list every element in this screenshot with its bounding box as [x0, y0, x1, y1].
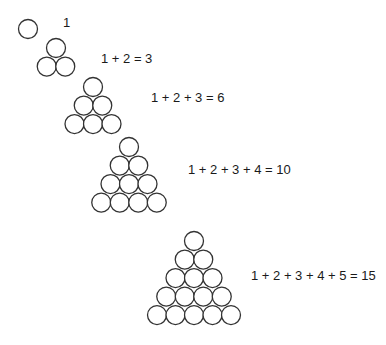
circle-triangle-1 [19, 20, 38, 39]
circle-icon [194, 287, 213, 306]
circle-icon [166, 269, 185, 288]
circle-icon [47, 39, 66, 58]
circle-icon [203, 306, 222, 325]
circle-icon [110, 193, 129, 212]
circle-triangle-2 [37, 39, 75, 77]
circle-icon [157, 287, 176, 306]
circle-icon [19, 20, 38, 39]
circle-icon [148, 306, 167, 325]
circle-triangle-5 [148, 232, 241, 325]
circle-icon [185, 306, 204, 325]
circle-icon [185, 269, 204, 288]
circle-icon [194, 250, 213, 269]
circle-icon [166, 306, 185, 325]
circle-icon [92, 193, 111, 212]
circle-icon [84, 115, 103, 134]
label-row-3: 1 + 2 + 3 = 6 [151, 90, 224, 105]
circle-icon [101, 175, 120, 194]
circle-icon [138, 175, 157, 194]
label-row-2: 1 + 2 = 3 [101, 51, 152, 66]
circle-icon [65, 115, 84, 134]
circle-icon [93, 96, 112, 115]
circle-icon [175, 250, 194, 269]
circle-icon [185, 232, 204, 251]
circle-icon [37, 57, 56, 76]
circle-icon [84, 78, 103, 97]
circle-icon [120, 175, 139, 194]
circle-icon [120, 138, 139, 157]
label-row-1: 1 [63, 15, 70, 30]
label-row-5: 1 + 2 + 3 + 4 + 5 = 15 [251, 268, 376, 283]
circle-icon [102, 115, 121, 134]
circle-icon [222, 306, 241, 325]
circle-icon [110, 156, 129, 175]
circle-icon [129, 193, 148, 212]
circle-icon [147, 193, 166, 212]
label-row-4: 1 + 2 + 3 + 4 = 10 [188, 162, 291, 177]
circle-icon [74, 96, 93, 115]
circle-triangle-3 [65, 78, 121, 134]
circle-triangle-4 [92, 138, 167, 213]
circle-icon [212, 287, 231, 306]
circle-icon [203, 269, 222, 288]
circle-icon [56, 57, 75, 76]
circle-icon [129, 156, 148, 175]
circle-icon [175, 287, 194, 306]
